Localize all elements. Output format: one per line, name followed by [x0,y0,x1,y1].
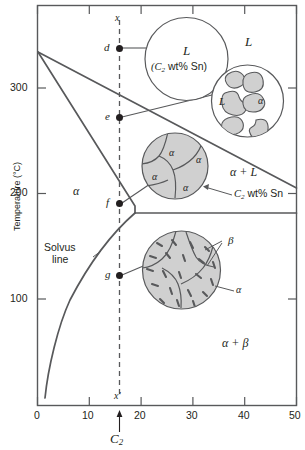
solidus-line [38,52,135,213]
x-axis-title-sub: 2 [119,437,123,447]
liquid-region-label: L [245,35,252,48]
x-axis-title: C2 [110,432,123,447]
solvus-label-line2: line [52,254,68,265]
alpha-plus-liquid-region-label: α + L [230,166,257,178]
y-tick-300: 300 [10,82,28,93]
alpha-plus-beta-region-label: α + β [222,337,248,349]
solvus-label-line1: Solvus [44,242,76,253]
composition-arrow-head [117,410,123,417]
y-tick-100: 100 [10,293,28,304]
microstructure-alpha-grains-circle [141,132,208,199]
x-tick-30: 30 [186,410,198,421]
microstructure-alpha-grain-4: α [183,183,188,193]
composition-callout-tail: wt% Sn [245,187,284,199]
composition-callout-c: C [234,188,241,199]
point-f-label: f [106,197,109,208]
microstructure-alphabeta-alpha-label: α [236,285,241,295]
point-g-label: g [105,269,111,280]
point-d-marker [116,45,123,52]
microstructure-liquid-label: L [183,44,190,57]
point-f-marker [116,200,123,207]
vertical-line-top-label: x [115,13,119,23]
y-tick-200: 200 [10,187,28,198]
x-axis-title-text: C [110,431,119,446]
point-d-label: d [104,42,110,53]
vertical-line-bottom-label: x' [114,391,121,401]
composition-callout-arrow [203,184,209,190]
microstructure-alpha-grain-2: α [196,155,201,165]
microstructure-alpha-plus-beta-circle [142,231,234,309]
phase-diagram-figure: Temperature (°C) 300 200 100 0 10 20 30 … [0,0,305,450]
x-tick-20: 20 [134,410,146,421]
microstructure-lplusa-alpha-label: α [258,96,263,106]
microstructure-alpha-grain-3: α [152,172,157,182]
composition-callout-leader [205,187,232,195]
microstructure-liquid-comp-tail: wt% Sn) [165,60,207,72]
x-tick-0: 0 [34,410,40,421]
point-e-marker [116,114,123,121]
x-tick-40: 40 [238,410,250,421]
point-e-label: e [105,111,110,122]
microstructure-liquid-comp-prefix: (C [151,61,162,72]
alpha-region-label: α [73,185,79,197]
microstructure-beta-label: β [228,235,233,246]
microstructure-alpha-grain-1: α [169,148,174,158]
composition-callout-label: C2 wt% Sn [234,188,283,201]
microstructure-liquid-composition: (C2 wt% Sn) [151,61,207,74]
x-tick-50: 50 [289,410,301,421]
point-g-marker [116,272,123,279]
microstructure-lplusa-liquid-label: L [219,96,225,107]
x-tick-10: 10 [82,410,94,421]
